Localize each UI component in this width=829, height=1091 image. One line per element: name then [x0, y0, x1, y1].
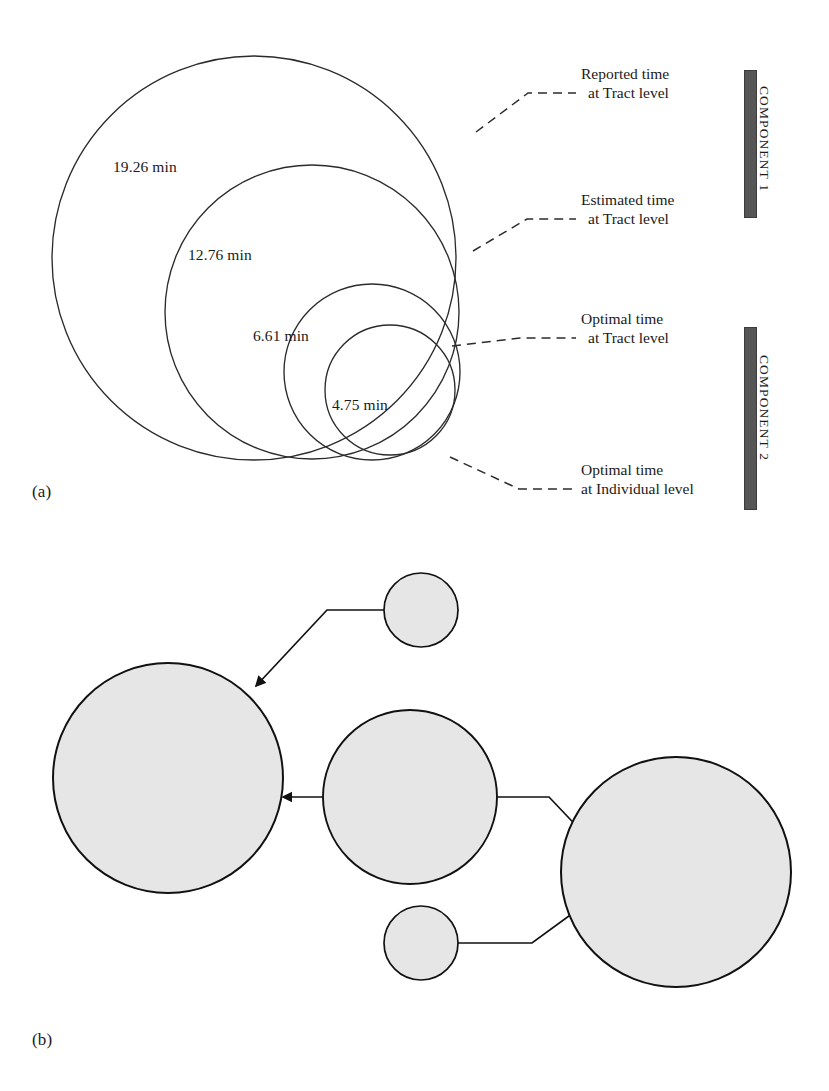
circle-label-estimated-time: 12.76 min: [188, 246, 252, 264]
node-component-1: [384, 573, 458, 647]
panel-a: 19.26 min 12.76 min 6.61 min 4.75 min Re…: [0, 0, 829, 545]
panel-a-graphics: [0, 0, 829, 545]
leader-label-optimal-individual-line2: at Individual level: [581, 480, 694, 499]
node-true-wasteful-commuting: [561, 757, 791, 987]
circle-label-optimal-tract: 6.61 min: [253, 327, 309, 345]
circle-reported-time: [52, 56, 456, 460]
circle-label-reported-time: 19.26 min: [113, 158, 177, 176]
leader-line-estimated: [473, 219, 576, 251]
leader-label-optimal-tract-line1: Optimal time: [581, 310, 669, 329]
leader-line-optimal-tract: [452, 338, 576, 346]
leader-label-optimal-tract-line2: at Tract level: [581, 329, 669, 348]
panel-b: 17.48 % 65.68% Reported vs. Optimal at T…: [0, 545, 829, 1091]
leader-label-optimal-individual-line1: Optimal time: [581, 461, 694, 480]
leader-line-optimal-individual: [450, 457, 576, 489]
figure-container: 19.26 min 12.76 min 6.61 min 4.75 min Re…: [0, 0, 829, 1091]
panel-a-label: (a): [32, 482, 51, 502]
component-1-vertical-bar-label: COMPONENT 1: [756, 86, 772, 192]
leader-label-estimated-line2: at Tract level: [581, 210, 674, 229]
circle-optimal-tract: [284, 284, 460, 460]
circle-estimated-time: [165, 165, 459, 459]
leader-label-optimal-individual: Optimal time at Individual level: [581, 461, 694, 499]
leader-label-estimated-line1: Estimated time: [581, 191, 674, 210]
edge-component2-to-true-wasteful: [457, 905, 584, 943]
leader-line-reported: [476, 93, 576, 132]
node-estimated-vs-optimal-tract: [323, 710, 497, 884]
circle-optimal-individual: [325, 325, 455, 455]
node-component-2: [384, 906, 458, 980]
panel-b-label: (b): [32, 1030, 52, 1050]
panel-b-graphics: [0, 545, 829, 1091]
leader-label-reported-line2: at Tract level: [581, 84, 669, 103]
leader-label-reported-time: Reported time at Tract level: [581, 65, 669, 103]
leader-label-reported-line1: Reported time: [581, 65, 669, 84]
leader-label-estimated-time: Estimated time at Tract level: [581, 191, 674, 229]
component-2-vertical-bar-label: COMPONENT 2: [756, 355, 772, 461]
node-false-wasteful-commuting: [53, 663, 283, 893]
leader-label-optimal-tract: Optimal time at Tract level: [581, 310, 669, 348]
circle-label-optimal-individual: 4.75 min: [332, 396, 388, 414]
